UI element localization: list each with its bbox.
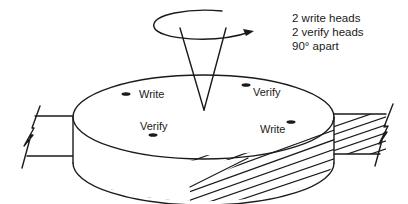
head-drum-diagram: Write Verify Verify Write 2 write heads … [0,0,408,204]
head-marker-verify-2 [149,133,158,137]
head-config-note: 2 write heads 2 verify heads 90° apart [292,12,364,52]
head-label-write-2: Write [260,123,285,135]
drum-top [73,75,334,159]
head-label-verify-2: Verify [140,120,168,132]
tape-right [330,104,400,176]
note-line-2: 2 verify heads [292,26,364,38]
note-line-3: 90° apart [292,40,340,52]
head-label-write-1: Write [139,88,164,100]
tape-left [22,106,73,168]
rotation-arrow-icon [154,10,254,39]
head-marker-write-1 [122,92,131,96]
head-label-verify-1: Verify [253,86,281,98]
head-marker-write-2 [287,120,296,124]
note-line-1: 2 write heads [292,12,361,24]
rotation-axis-cone [180,28,226,110]
head-marker-verify-1 [242,83,251,87]
tape-break-left-icon [22,106,40,168]
